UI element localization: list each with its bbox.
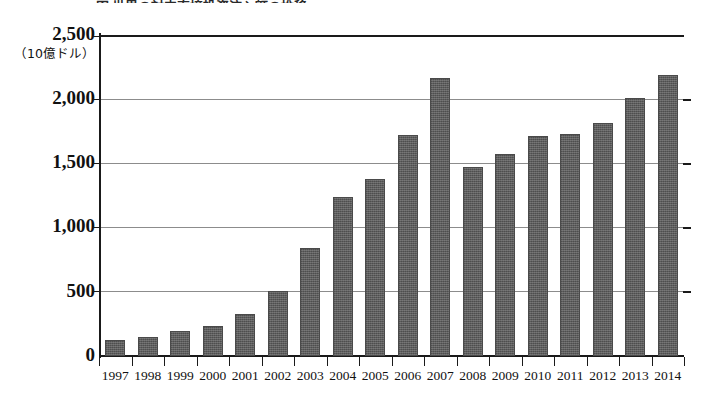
x-tick-1998 xyxy=(132,357,133,366)
x-tick-1997 xyxy=(99,357,100,366)
x-tick-end xyxy=(684,357,685,366)
x-axis-labels: 1997199819992000200120022003200420052006… xyxy=(0,0,704,402)
x-tick-2003 xyxy=(294,357,295,366)
x-tick-2010 xyxy=(522,357,523,366)
x-axis-label-2014: 2014 xyxy=(648,368,688,383)
x-tick-2009 xyxy=(489,357,490,366)
x-tick-2014 xyxy=(652,357,653,366)
chart-figure: 図 世界の対内直接投資流入額の推移 2,500 （10億ドル） 2,000 1,… xyxy=(0,0,704,402)
x-tick-2013 xyxy=(619,357,620,366)
x-tick-2011 xyxy=(554,357,555,366)
x-tick-2012 xyxy=(587,357,588,366)
x-tick-2004 xyxy=(327,357,328,366)
x-tick-2007 xyxy=(424,357,425,366)
x-tick-2000 xyxy=(197,357,198,366)
x-tick-2006 xyxy=(392,357,393,366)
x-tick-1999 xyxy=(164,357,165,366)
x-tick-2005 xyxy=(359,357,360,366)
x-tick-2002 xyxy=(262,357,263,366)
x-tick-2001 xyxy=(229,357,230,366)
x-tick-2008 xyxy=(457,357,458,366)
